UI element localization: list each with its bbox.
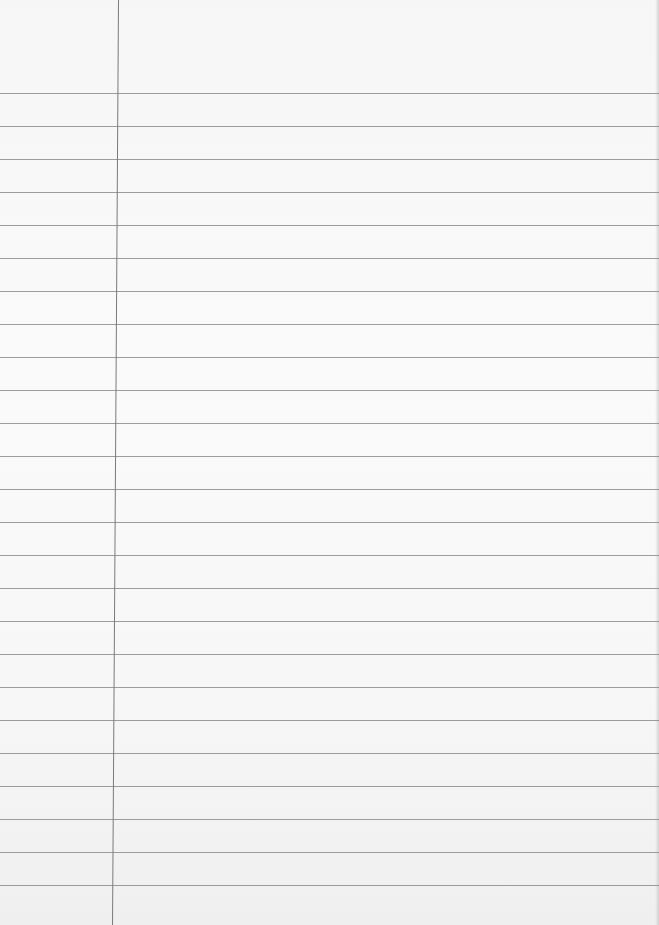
ruled-line bbox=[0, 126, 659, 127]
ruled-line bbox=[0, 588, 659, 589]
ruled-line bbox=[0, 357, 659, 358]
ruled-line bbox=[0, 423, 659, 424]
ruled-line bbox=[0, 852, 659, 853]
ruled-line bbox=[0, 720, 659, 721]
ruled-line bbox=[0, 258, 659, 259]
ruled-line bbox=[0, 456, 659, 457]
ruled-line bbox=[0, 390, 659, 391]
ruled-line bbox=[0, 555, 659, 556]
ruled-line bbox=[0, 93, 659, 94]
ruled-line bbox=[0, 291, 659, 292]
ruled-line bbox=[0, 489, 659, 490]
ruled-line bbox=[0, 654, 659, 655]
ruled-line bbox=[0, 159, 659, 160]
ruled-line bbox=[0, 192, 659, 193]
ruled-line bbox=[0, 753, 659, 754]
ruled-line bbox=[0, 522, 659, 523]
ruled-line bbox=[0, 324, 659, 325]
ruled-line bbox=[0, 225, 659, 226]
ruled-line bbox=[0, 786, 659, 787]
ruled-line bbox=[0, 621, 659, 622]
ruled-line bbox=[0, 687, 659, 688]
ruled-line bbox=[0, 885, 659, 886]
ruled-line bbox=[0, 819, 659, 820]
lined-paper bbox=[0, 0, 659, 925]
